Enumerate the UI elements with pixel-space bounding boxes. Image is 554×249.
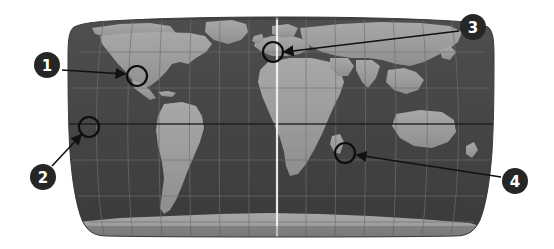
callout-3-label: 3 [468,19,478,37]
callout-4-label: 4 [510,173,520,191]
map-body [60,10,504,246]
callout-2-label: 2 [38,169,48,187]
annotated-world-map-figure: 1 2 3 4 [0,0,554,249]
callout-1-label: 1 [42,57,52,75]
